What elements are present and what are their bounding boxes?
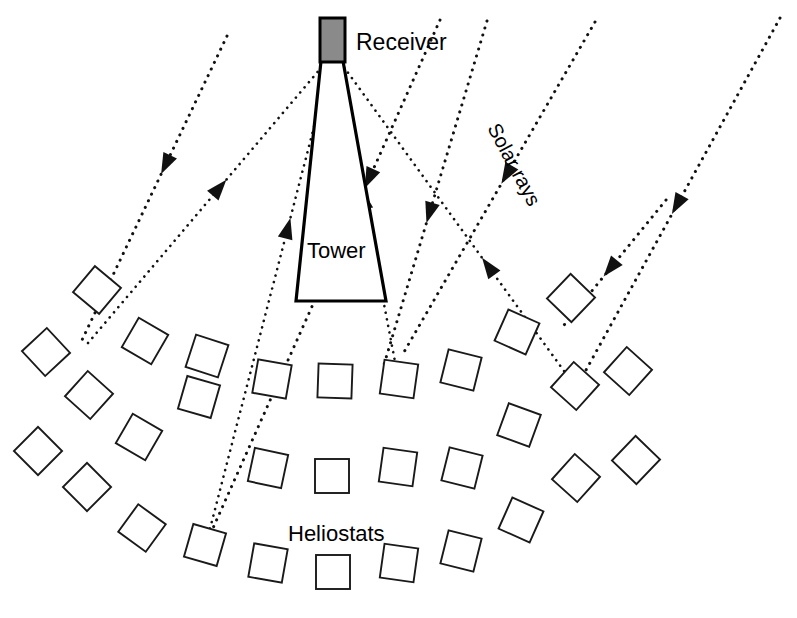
reflected-ray-4 [341, 63, 572, 382]
heliostat [499, 498, 544, 543]
heliostat [186, 335, 229, 378]
reflected-ray-1 [88, 62, 326, 343]
ray-direction-arrow-icon [207, 180, 226, 201]
heliostat [14, 427, 62, 475]
heliostat [118, 504, 165, 551]
heliostats-label: Heliostats [288, 521, 385, 546]
incoming-ray-2-line [383, 21, 487, 368]
solar-tower-diagram: Receiver Tower Heliostats Solar rays [0, 0, 797, 618]
heliostat [440, 530, 481, 571]
heliostat [22, 328, 70, 376]
ray-direction-arrow-icon [604, 256, 623, 277]
heliostat [316, 555, 350, 589]
rays-layer [82, 18, 780, 548]
heliostat [116, 414, 162, 460]
heliostat-lit [184, 524, 226, 566]
heliostat [495, 310, 540, 355]
heliostat-lit [551, 362, 599, 410]
diagram-canvas: Receiver Tower Heliostats Solar rays [0, 0, 797, 618]
heliostat [252, 359, 291, 398]
heliostat [440, 349, 481, 390]
reflected-ray-1-line [88, 62, 326, 343]
ray-direction-arrow-icon [425, 201, 439, 223]
heliostat [547, 274, 595, 322]
heliostat [441, 447, 482, 488]
incoming-ray-4 [575, 18, 780, 390]
heliostat [248, 543, 287, 582]
heliostat [552, 454, 600, 502]
incoming-ray-2 [383, 21, 487, 368]
ray-direction-arrow-icon [672, 192, 689, 214]
heliostat [315, 459, 349, 493]
heliostat [612, 436, 660, 484]
heliostat [380, 544, 418, 582]
reflected-ray-4-line [341, 63, 572, 382]
heliostat [379, 448, 417, 486]
heliostat [122, 318, 168, 364]
heliostat [497, 403, 541, 447]
ray-direction-arrow-icon [482, 258, 500, 279]
ray-direction-arrow-icon [365, 166, 380, 188]
solar-rays-label: Solar rays [483, 120, 545, 210]
heliostat [63, 463, 111, 511]
ray-direction-arrow-icon [278, 218, 293, 240]
heliostat-lit [380, 360, 418, 398]
heliostat [65, 371, 113, 419]
tower-label: Tower [307, 238, 366, 263]
ray-direction-arrow-icon [161, 152, 177, 174]
heliostat [178, 376, 220, 418]
receiver-label: Receiver [356, 29, 447, 55]
tower-shape [296, 61, 386, 301]
receiver-box [320, 18, 345, 62]
heliostat [248, 448, 288, 488]
heliostat [604, 347, 652, 395]
heliostat [317, 363, 352, 398]
